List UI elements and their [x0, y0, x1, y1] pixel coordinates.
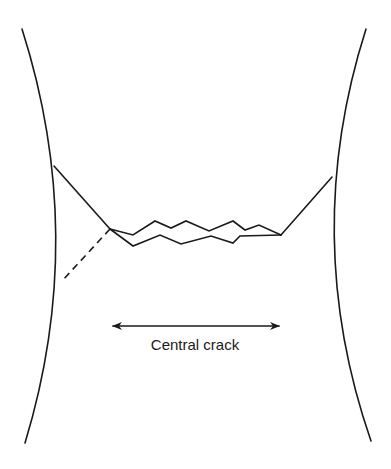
crack-lower-zigzag: [110, 229, 281, 246]
central-crack-label: Central crack: [151, 336, 240, 353]
shear-lip-right: [281, 177, 332, 235]
shear-lip-left: [54, 166, 110, 229]
crack-upper-zigzag: [110, 221, 281, 235]
central-crack-diagram: Central crack: [0, 0, 391, 469]
specimen-right-edge: [334, 29, 371, 441]
shear-lip-left-dashed: [62, 229, 110, 281]
specimen-left-edge: [22, 29, 56, 443]
